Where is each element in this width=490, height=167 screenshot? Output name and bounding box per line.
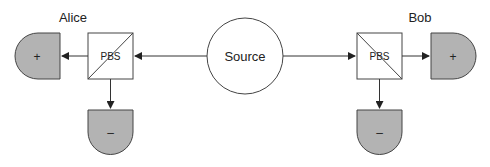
diagram-canvas: Source Alice PBS + – Bob PBS + – xyxy=(0,0,490,167)
alice-minus-symbol: – xyxy=(107,126,114,140)
bob-detector-minus: – xyxy=(357,110,402,155)
bob-plus-symbol: + xyxy=(449,50,456,64)
alice-pbs-label: PBS xyxy=(100,51,120,62)
bob-pbs-label: PBS xyxy=(369,51,389,62)
alice-pbs: PBS xyxy=(88,33,133,79)
alice-plus-symbol: + xyxy=(33,50,40,64)
bob-label: Bob xyxy=(408,10,431,25)
alice-detector-plus: + xyxy=(15,33,60,79)
source-node: Source xyxy=(207,18,283,94)
bob-detector-plus: + xyxy=(431,33,476,79)
alice-label: Alice xyxy=(59,10,87,25)
source-label: Source xyxy=(224,49,265,64)
alice-detector-minus: – xyxy=(88,110,133,155)
bob-minus-symbol: – xyxy=(376,126,383,140)
bob-pbs: PBS xyxy=(357,33,402,79)
